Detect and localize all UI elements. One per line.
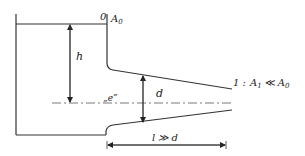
- tank-outline: [16, 14, 232, 135]
- length-label: l ≫ d: [152, 132, 178, 143]
- outlet-area-relation: A1≪A0: [249, 77, 290, 90]
- height-label: h: [76, 50, 83, 63]
- station-0-label: 0: [100, 11, 107, 22]
- nozzle-top-wall: [107, 14, 232, 89]
- area-A0-label: A0: [110, 13, 123, 26]
- diagram-canvas: 0 A0 h „e” d 1 : A1≪A0 l ≫ d: [0, 0, 305, 156]
- diameter-label: d: [156, 87, 163, 100]
- entry-point-label: „e”: [103, 93, 118, 103]
- outlet-station-label: 1 :: [233, 77, 246, 88]
